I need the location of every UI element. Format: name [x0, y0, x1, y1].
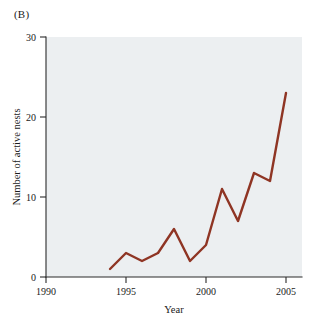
x-axis-title: Year: [164, 304, 184, 315]
x-tick-label-1995: 1995: [116, 286, 136, 297]
y-axis-ticks: 30 20 10 0: [26, 32, 46, 283]
x-tick-label-2000: 2000: [196, 286, 216, 297]
y-axis-title: Number of active nests: [11, 108, 22, 205]
line-chart: 30 20 10 0 1990 1995 2000 2005 Year Numb…: [0, 0, 319, 324]
x-tick-label-1990: 1990: [36, 286, 56, 297]
x-axis-ticks: 1990 1995 2000 2005: [36, 277, 296, 297]
plot-area-background: [46, 37, 302, 277]
y-tick-label-20: 20: [26, 112, 36, 123]
y-tick-label-0: 0: [31, 272, 36, 283]
x-tick-label-2005: 2005: [276, 286, 296, 297]
figure-panel-b: (B) 30 20 10 0 1990 1995 2000 2: [0, 0, 319, 324]
y-tick-label-10: 10: [26, 192, 36, 203]
y-tick-label-30: 30: [26, 32, 36, 43]
